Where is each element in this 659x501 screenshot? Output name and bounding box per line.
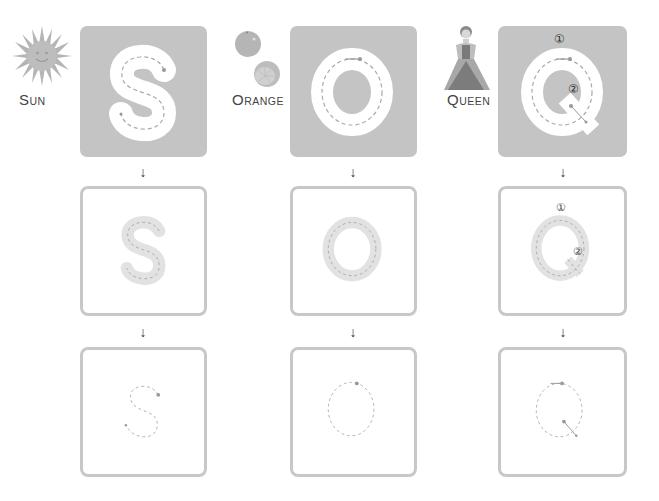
word-label-orange: ORANGE — [232, 91, 284, 109]
word-rest: UN — [30, 95, 46, 107]
letter-card-q-outline: ① ② — [498, 186, 627, 316]
stroke-number-1: ① — [556, 201, 566, 214]
down-arrow-icon: ↓ — [133, 165, 153, 179]
letter-card-o-filled: O — [290, 26, 417, 157]
down-arrow-icon: ↓ — [343, 325, 363, 339]
letter-card-s-outline — [80, 186, 207, 316]
down-arrow-icon: ↓ — [133, 325, 153, 339]
letter-card-q-dotted — [498, 347, 627, 477]
letter-card-s-dotted — [80, 347, 207, 477]
down-arrow-icon: ↓ — [553, 325, 573, 339]
stroke-number-2: ② — [568, 82, 579, 96]
letter-card-q-filled: ① ② Q — [498, 26, 627, 157]
word-cap: O — [232, 91, 244, 108]
orange-picture — [234, 30, 284, 88]
orange-icon — [234, 30, 284, 88]
word-label-sun: SUN — [19, 91, 46, 109]
queen-picture — [444, 25, 494, 93]
letter-card-s-filled: S — [80, 26, 207, 157]
word-cap: S — [19, 91, 30, 108]
letter-card-o-dotted — [290, 347, 417, 477]
word-cap: Q — [447, 91, 459, 108]
sun-icon — [12, 26, 72, 86]
stroke-number-1: ① — [554, 32, 565, 46]
word-rest: RANGE — [244, 95, 284, 107]
down-arrow-icon: ↓ — [343, 165, 363, 179]
word-rest: UEEN — [459, 95, 490, 107]
word-label-queen: QUEEN — [447, 91, 490, 109]
letter-card-o-outline — [290, 186, 417, 316]
down-arrow-icon: ↓ — [553, 165, 573, 179]
queen-icon — [444, 25, 494, 93]
sun-picture — [12, 26, 72, 86]
stroke-number-2: ② — [573, 245, 583, 258]
